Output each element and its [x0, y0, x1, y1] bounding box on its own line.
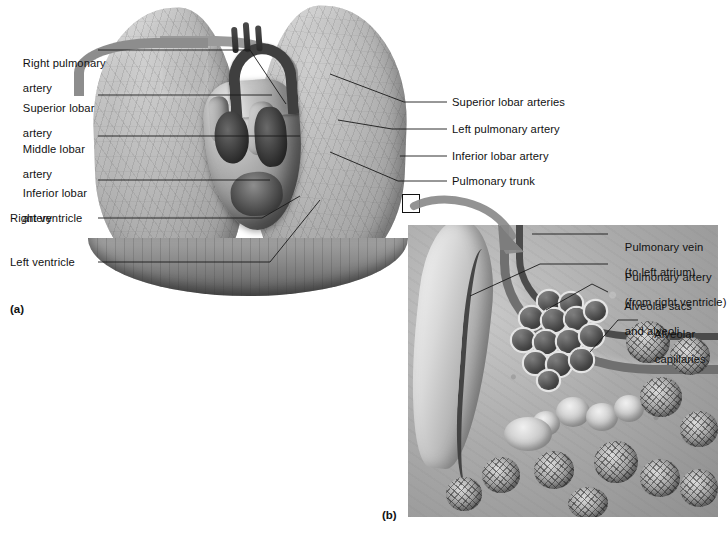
left-subclavian-graphic: [255, 25, 263, 51]
label-line-1: Superior lobar: [23, 102, 95, 114]
label-superior-lobar-arteries: Superior lobar arteries: [452, 96, 565, 109]
label-line-2: capillaries: [655, 353, 706, 365]
label-pulmonary-trunk: Pulmonary trunk: [452, 175, 535, 188]
lung-heart-illustration: [88, 2, 408, 294]
panel-label-b: (b): [382, 509, 397, 521]
ventricle-apex-graphic: [229, 170, 284, 218]
diaphragm-graphic: [88, 238, 408, 296]
label-left-ventricle: Left ventricle: [10, 256, 75, 269]
panel-label-a: (a): [10, 303, 24, 315]
label-right-ventricle: Right ventricle: [10, 212, 82, 225]
alveolar-duct-graphic: [556, 397, 590, 427]
right-ventricle-graphic: [213, 110, 251, 164]
diaphragm-texture: [88, 238, 408, 296]
capillary-covered-alveolus: [482, 457, 520, 493]
label-line-1: Inferior lobar: [23, 187, 87, 199]
label-inferior-lobar-artery: Inferior lobar artery: [10, 174, 87, 237]
label-line-1: Pulmonary vein: [625, 241, 704, 253]
magnification-marker-box: [402, 194, 420, 213]
label-inferior-lobar-artery-right: Inferior lobar artery: [452, 150, 549, 163]
capillary-covered-alveolus: [640, 377, 682, 417]
brachiocephalic-vessel-graphic: [231, 27, 239, 53]
alveolar-sac-cluster-graphic: [508, 291, 612, 383]
capillary-covered-alveolus: [680, 411, 718, 447]
capillary-covered-alveolus: [640, 459, 680, 497]
label-alveolar-capillaries: Alveolar capillaries: [642, 315, 706, 378]
capillary-covered-alveolus: [446, 477, 482, 511]
alveolar-duct-graphic: [504, 417, 552, 451]
label-line-1: Middle lobar: [23, 143, 85, 155]
label-left-pulmonary-artery: Left pulmonary artery: [452, 123, 560, 136]
capillary-covered-alveolus: [568, 487, 608, 517]
label-line-1: Right pulmonary: [23, 57, 106, 69]
capillary-covered-alveolus: [594, 441, 638, 483]
label-line-1: Alveolar: [654, 328, 695, 340]
label-line-1: Pulmonary artery: [625, 271, 712, 283]
capillary-covered-alveolus: [680, 469, 718, 507]
figure-container: Right pulmonary artery Superior lobar ar…: [0, 0, 727, 542]
capillary-covered-alveolus: [534, 451, 574, 489]
left-common-carotid-graphic: [243, 22, 251, 52]
label-line-1: Alveolar sacs: [624, 300, 692, 312]
left-ventricle-graphic: [253, 106, 289, 168]
